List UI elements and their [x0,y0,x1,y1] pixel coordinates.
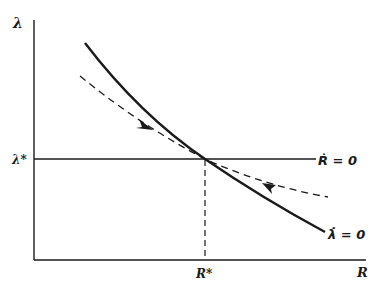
lambda-star-label: λ* [11,153,27,167]
saddle-arrow-lower-icon [262,183,276,194]
r-star-label: R* [195,267,213,281]
saddle-arrow-upper-icon [136,119,153,130]
saddle-path-curve [80,76,328,197]
x-axis-label: R [356,265,368,280]
y-axis-label: λ [12,15,23,31]
phase-diagram: λ R λ* R* Ṙ = 0 λ̇ = 0 [0,0,387,292]
r-dot-zero-label: Ṙ = 0 [318,153,357,168]
lambda-dot-zero-label: λ̇ = 0 [327,227,365,242]
